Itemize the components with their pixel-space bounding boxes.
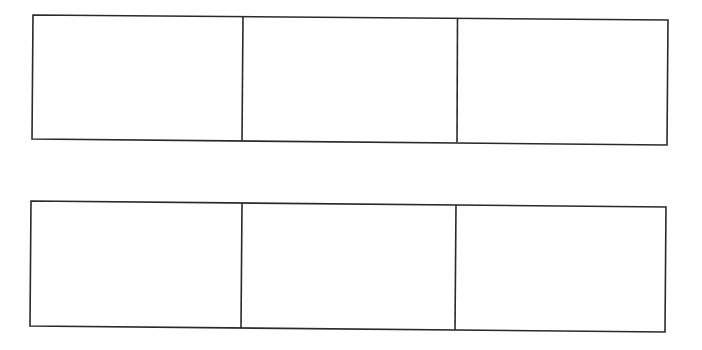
row-1-cell-1: [33, 16, 243, 143]
row-1-cell-2: [243, 16, 458, 143]
row-1-cell-3: [458, 16, 667, 143]
row-2-cells: [31, 203, 665, 330]
row-2-cell-3: [455, 203, 665, 330]
row-2-cell-2: [241, 203, 455, 330]
row-1-cells: [33, 16, 667, 143]
row-2-cell-1: [31, 203, 241, 330]
